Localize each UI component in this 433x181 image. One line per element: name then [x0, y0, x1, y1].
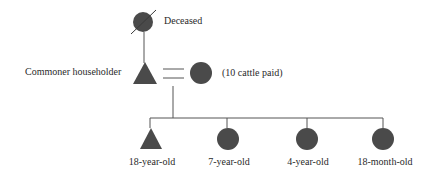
wife-circle-icon	[190, 62, 212, 84]
child-label: 18-year-old	[129, 156, 175, 168]
child-daughter-circle-icon	[372, 128, 394, 150]
bride-wealth-label: (10 cattle paid)	[222, 67, 283, 79]
child-son-triangle-icon	[140, 128, 162, 149]
deceased-label: Deceased	[164, 15, 202, 27]
child-daughter-circle-icon	[296, 128, 318, 150]
child-label: 4-year-old	[287, 156, 328, 168]
householder-triangle-icon	[133, 62, 157, 84]
child-label: 18-month-old	[358, 156, 413, 168]
child-label: 7-year-old	[208, 156, 249, 168]
child-daughter-circle-icon	[217, 128, 239, 150]
householder-label: Commoner householder	[25, 66, 121, 78]
kinship-diagram	[0, 0, 433, 181]
